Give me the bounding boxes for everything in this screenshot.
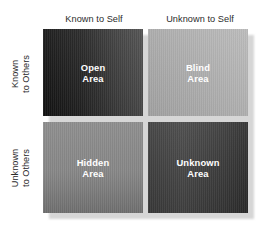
row-header-unknown-to-others-text: Unknown to Others [10,148,32,186]
column-header-known-to-self: Known to Self [43,13,145,25]
column-header-unknown-to-self: Unknown to Self [149,13,251,25]
row-header-unknown-to-others-line1: Unknown [10,148,20,186]
quadrant-blind-area-line1: Blind [186,61,210,72]
quadrant-hidden-area-label: Hidden Area [43,156,143,179]
quadrant-open-area-line1: Open [81,61,106,72]
quadrant-blind-area-label: Blind Area [148,61,248,84]
quadrant-unknown-area: Unknown Area [148,122,248,213]
row-header-known-to-others-line1: Known [10,59,20,87]
quadrant-open-area-label: Open Area [43,61,143,84]
johari-window-diagram: Known to Self Unknown to Self Known to O… [0,0,270,234]
quadrant-open-area: Open Area [43,29,143,116]
quadrant-unknown-area-line1: Unknown [176,156,219,167]
quadrant-blind-area-line2: Area [148,73,248,85]
quadrant-open-area-line2: Area [43,73,143,85]
row-header-unknown-to-others-line2: to Others [21,149,31,187]
row-header-known-to-others: Known to Others [0,29,42,118]
quadrant-hidden-area-line2: Area [43,168,143,180]
quadrant-blind-area: Blind Area [148,29,248,116]
row-header-unknown-to-others: Unknown to Others [0,122,42,213]
quadrant-hidden-area: Hidden Area [43,122,143,213]
row-header-known-to-others-line2: to Others [21,55,31,93]
quadrant-unknown-area-label: Unknown Area [148,156,248,179]
quadrant-unknown-area-line2: Area [148,168,248,180]
johari-matrix: Open Area Blind Area Hidden Area Unknown… [43,29,248,213]
row-header-known-to-others-text: Known to Others [10,55,32,93]
quadrant-hidden-area-line1: Hidden [77,156,110,167]
